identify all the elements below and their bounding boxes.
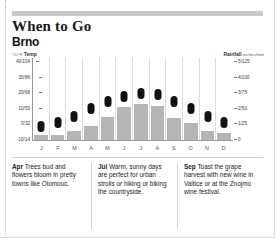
chart-divider	[12, 157, 263, 158]
note-month: Apr	[12, 163, 23, 170]
month-label: M	[66, 143, 83, 153]
note-text: Warm, sunny days are perfect for urban s…	[98, 163, 167, 195]
temperature-marker	[104, 96, 111, 107]
temperature-marker	[121, 91, 128, 102]
chart-column	[133, 58, 150, 140]
chart-column	[33, 58, 50, 140]
rainfall-bar	[117, 107, 131, 140]
rainfall-bar	[184, 123, 198, 140]
seasonal-note: Apr Trees bud and flowers bloom in prett…	[12, 163, 91, 229]
seasonal-note: Jul Warm, sunny days are perfect for urb…	[91, 163, 177, 229]
right-tick-mark	[234, 123, 237, 124]
when-to-go-infographic: When to Go Brno °C/°F Temp Rainfall inch…	[0, 0, 275, 238]
month-label: J	[33, 143, 50, 153]
left-tick-label: 10/50	[19, 105, 31, 112]
chart-column	[200, 58, 217, 140]
note-month: Jul	[98, 163, 107, 170]
right-tick-label: 3/75	[238, 89, 247, 96]
month-label: A	[149, 143, 166, 153]
right-axis-label: Rainfall	[223, 51, 241, 57]
rainfall-bar	[51, 135, 65, 140]
page-border-bottom	[0, 237, 275, 238]
left-tick-label: 20/68	[19, 89, 31, 96]
chart-column	[66, 58, 83, 140]
month-axis-labels: JFMAMJJASOND	[33, 143, 232, 153]
temperature-marker	[221, 117, 228, 128]
chart-column	[116, 58, 133, 140]
right-tick-mark	[234, 77, 237, 78]
seasonal-note: Sep Toast the grape harvest with new win…	[177, 163, 263, 229]
chart-column	[50, 58, 67, 140]
left-tick-label: 0/32	[21, 120, 30, 127]
rainfall-bar	[134, 104, 148, 140]
chart-column	[100, 58, 117, 140]
chart-columns	[33, 58, 232, 140]
month-label: D	[215, 143, 232, 153]
climate-chart	[33, 58, 232, 140]
right-axis-caption: Rainfall inches/mm	[223, 51, 264, 57]
right-tick-label: 2/50	[238, 105, 247, 112]
right-tick-label: 4/100	[238, 74, 250, 81]
rainfall-bar	[167, 118, 181, 140]
right-axis-unit: inches/mm	[243, 52, 264, 57]
month-label: O	[182, 143, 199, 153]
left-axis-unit: °C/°F	[12, 52, 23, 57]
note-month: Sep	[184, 163, 196, 170]
chart-column	[83, 58, 100, 140]
left-tick-label: 30/86	[19, 74, 31, 81]
right-tick-label: 0	[238, 136, 241, 143]
chart-column	[150, 58, 167, 140]
left-tick-label: -10/14	[17, 136, 30, 143]
temperature-marker	[171, 96, 178, 107]
right-tick-label: 1/25	[238, 120, 247, 127]
page-border-right	[274, 0, 275, 238]
rainfall-bar	[67, 131, 81, 140]
baseline-axis	[32, 140, 233, 141]
month-label: J	[116, 143, 133, 153]
month-label: F	[50, 143, 67, 153]
temperature-marker	[137, 88, 144, 99]
temperature-marker	[54, 117, 61, 128]
chart-column	[166, 58, 183, 140]
page-title: When to Go	[12, 18, 92, 35]
city-name: Brno	[12, 35, 39, 49]
right-tick-mark	[234, 92, 237, 93]
chart-column	[216, 58, 232, 140]
rainfall-bar	[34, 135, 48, 140]
temperature-marker	[154, 89, 161, 100]
rainfall-bar	[101, 117, 115, 140]
rainfall-bar	[201, 131, 215, 140]
right-tick-mark	[234, 139, 237, 140]
right-tick-label: 5/125	[238, 58, 250, 65]
left-axis-caption: °C/°F Temp	[12, 51, 37, 57]
temperature-marker	[37, 121, 44, 132]
month-label: N	[199, 143, 216, 153]
header-rule	[12, 11, 263, 16]
temperature-marker	[187, 103, 194, 114]
page-margin-rule	[5, 0, 6, 238]
right-tick-mark	[234, 61, 237, 62]
rainfall-bar	[151, 106, 165, 140]
left-tick-label: 40/104	[16, 58, 30, 65]
month-label: S	[166, 143, 183, 153]
month-label: J	[132, 143, 149, 153]
month-label: M	[99, 143, 116, 153]
temperature-marker	[87, 103, 94, 114]
seasonal-notes: Apr Trees bud and flowers bloom in prett…	[12, 163, 263, 229]
chart-column	[183, 58, 200, 140]
rainfall-bar	[84, 126, 98, 140]
rainfall-bar	[217, 133, 231, 140]
temperature-marker	[71, 111, 78, 122]
left-axis-label: Temp	[24, 51, 37, 57]
right-tick-mark	[234, 108, 237, 109]
temperature-marker	[204, 111, 211, 122]
month-label: A	[83, 143, 100, 153]
